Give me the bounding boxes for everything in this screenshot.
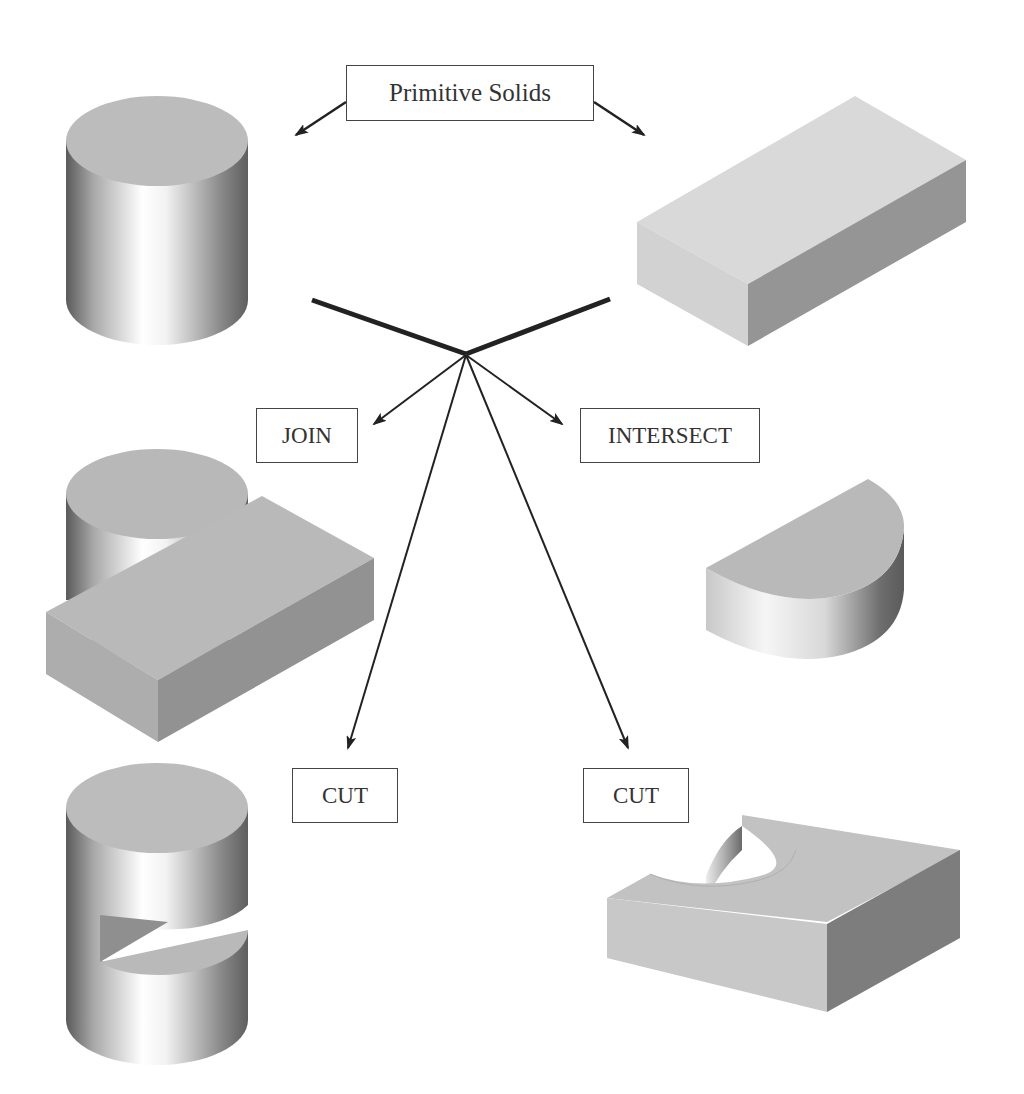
joined-solid <box>46 449 374 742</box>
primitive-solids-label: Primitive Solids <box>346 65 594 121</box>
cut-left-label: CUT <box>292 768 398 823</box>
join-text: JOIN <box>282 423 332 449</box>
cut-right-label: CUT <box>583 768 689 823</box>
intersected-solid <box>706 479 904 659</box>
primitive-solids-text: Primitive Solids <box>389 79 551 107</box>
block-cut-solid <box>607 815 960 1012</box>
arrow-to-cut-left <box>348 355 466 748</box>
cylinder-solid <box>66 96 248 345</box>
rectangular-block-solid <box>637 96 966 346</box>
arrow-to-join <box>374 355 466 424</box>
arrow-to-cylinder <box>296 102 346 135</box>
join-label: JOIN <box>256 408 358 463</box>
cut-left-text: CUT <box>322 783 368 809</box>
merge-line-right <box>466 299 610 354</box>
cylinder-cut-solid <box>66 763 248 1065</box>
intersect-text: INTERSECT <box>608 423 732 449</box>
merge-line-left <box>312 300 466 354</box>
intersect-label: INTERSECT <box>580 408 760 463</box>
arrow-to-block <box>594 102 644 135</box>
cut-right-text: CUT <box>613 783 659 809</box>
boolean-operations-diagram <box>0 0 1024 1094</box>
